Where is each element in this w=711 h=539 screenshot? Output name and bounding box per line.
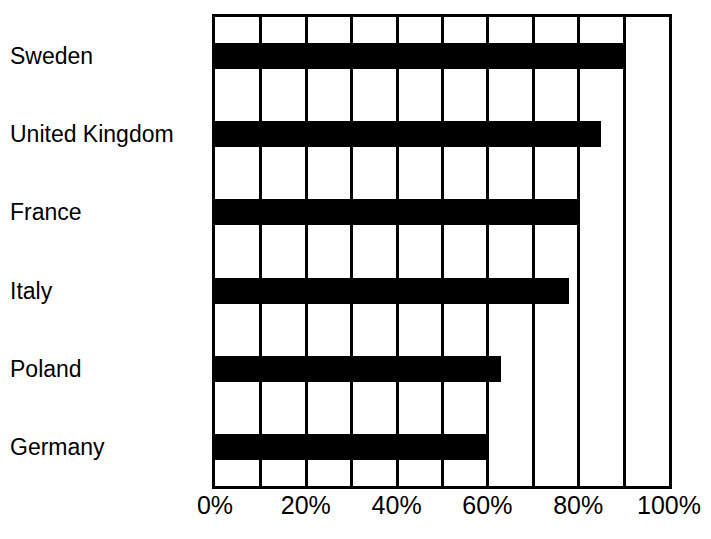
- gridline: [441, 17, 444, 486]
- bar-united-kingdom: [215, 121, 601, 147]
- plot-area: [212, 14, 672, 489]
- category-label-poland: Poland: [10, 358, 206, 381]
- gridline: [305, 17, 308, 486]
- bar-france: [215, 199, 578, 225]
- x-tick-label-80pct: 80%: [553, 492, 603, 520]
- category-label-germany: Germany: [10, 436, 206, 459]
- gridline: [396, 17, 399, 486]
- x-tick-label-100pct: 100%: [637, 492, 701, 520]
- category-axis-labels: SwedenUnited KingdomFranceItalyPolandGer…: [0, 14, 206, 489]
- gridline: [623, 17, 626, 486]
- gridline: [532, 17, 535, 486]
- category-label-italy: Italy: [10, 280, 206, 303]
- bar-italy: [215, 278, 569, 304]
- gridline: [486, 17, 489, 486]
- bar-sweden: [215, 43, 624, 69]
- gridline: [577, 17, 580, 486]
- gridline: [259, 17, 262, 486]
- category-label-sweden: Sweden: [10, 45, 206, 68]
- x-axis-tick-labels: 0%20%40%60%80%100%: [212, 492, 672, 532]
- plot-inner: [215, 17, 669, 486]
- x-tick-label-60pct: 60%: [462, 492, 512, 520]
- category-label-france: France: [10, 201, 206, 224]
- x-tick-label-40pct: 40%: [372, 492, 422, 520]
- bar-germany: [215, 434, 487, 460]
- bar-poland: [215, 356, 501, 382]
- chart-page: SwedenUnited KingdomFranceItalyPolandGer…: [0, 0, 711, 539]
- x-tick-label-0pct: 0%: [197, 492, 233, 520]
- category-label-united-kingdom: United Kingdom: [10, 123, 206, 146]
- x-tick-label-20pct: 20%: [281, 492, 331, 520]
- gridline: [350, 17, 353, 486]
